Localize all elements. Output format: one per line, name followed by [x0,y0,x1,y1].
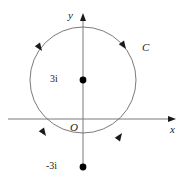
contour-direction-arrows [35,41,129,142]
contour-arrowhead-lower-right-icon [115,131,125,141]
point-marker-minus-3i [80,164,87,171]
point-marker-3i [80,77,87,84]
point-label-minus-3i: -3i [46,161,57,171]
complex-plane-figure: y x C O 3i -3i [0,0,183,194]
point-label-3i: 3i [50,74,58,84]
contour-label: C [142,42,149,53]
y-axis [80,13,86,170]
y-axis-arrowhead-icon [80,13,86,21]
contour-arrowhead-upper-left-icon [35,43,45,53]
origin-label: O [70,122,78,133]
y-axis-label: y [68,10,73,21]
x-axis [8,116,176,122]
figure-canvas [0,0,183,194]
x-axis-label: x [170,124,175,135]
contour-arrowhead-lower-left-icon [39,128,49,138]
x-axis-arrowhead-icon [168,116,176,122]
